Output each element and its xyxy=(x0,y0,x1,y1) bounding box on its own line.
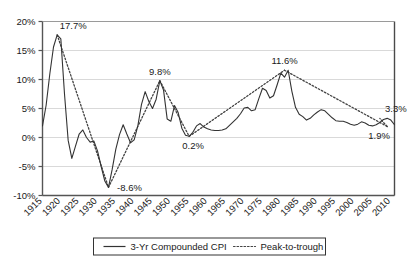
x-axis-tick-label: 1935 xyxy=(95,195,118,218)
cpi-line xyxy=(43,35,395,188)
peak-to-trough-segment xyxy=(109,81,160,188)
y-axis-tick-label: 20% xyxy=(16,16,36,27)
data-label: 9.8% xyxy=(149,66,171,77)
data-label: -8.6% xyxy=(117,182,142,193)
data-label: 17.7% xyxy=(60,20,87,31)
peak-to-trough-segment xyxy=(285,70,388,126)
legend-label-cpi: 3-Yr Compounded CPI xyxy=(131,241,227,252)
x-axis-tick-label: 1930 xyxy=(76,195,99,218)
x-axis-tick-label: 1985 xyxy=(278,195,301,218)
y-axis-tick-label: 5% xyxy=(22,103,36,114)
peak-to-trough-series xyxy=(57,35,387,188)
cpi-series xyxy=(43,35,395,188)
y-axis-labels: 20%15%10%5%0%-5%-10% xyxy=(13,16,36,201)
x-axis-tick-label: 1955 xyxy=(168,195,191,218)
x-axis-tick-label: 1970 xyxy=(223,195,246,218)
cpi-chart: 20%15%10%5%0%-5%-10% 1915192019251930193… xyxy=(0,0,415,264)
x-axis-tick-label: 1945 xyxy=(131,195,154,218)
x-axis-tick-label: 1980 xyxy=(260,195,283,218)
x-axis-tick-label: 1940 xyxy=(113,195,136,218)
y-axis-tick-label: 0% xyxy=(22,132,36,143)
legend: 3-Yr Compounded CPIPeak-to-trough xyxy=(94,238,326,255)
y-axis-tick-label: 10% xyxy=(16,74,36,85)
data-label: 3.3% xyxy=(385,103,407,114)
x-axis-tick-label: 2000 xyxy=(333,195,356,218)
gridlines xyxy=(43,22,395,196)
x-axis-tick-label: 1920 xyxy=(40,195,63,218)
legend-label-peak-to-trough: Peak-to-trough xyxy=(261,241,324,252)
x-axis-tick-label: 1990 xyxy=(296,195,319,218)
x-axis-tick-label: 1965 xyxy=(205,195,228,218)
data-label: 0.2% xyxy=(182,140,204,151)
chart-canvas: 20%15%10%5%0%-5%-10% 1915192019251930193… xyxy=(0,0,415,264)
data-label: 1.9% xyxy=(368,130,390,141)
x-axis-tick-label: 1950 xyxy=(150,195,173,218)
data-label: 11.6% xyxy=(271,55,298,66)
data-annotations: 17.7%-8.6%9.8%0.2%11.6%3.3%1.9% xyxy=(60,20,408,194)
x-axis-tick-label: 2005 xyxy=(351,195,374,218)
y-axis-tick-label: -5% xyxy=(19,161,36,172)
x-axis-tick-label: 1960 xyxy=(186,195,209,218)
x-axis-tick-label: 1995 xyxy=(315,195,338,218)
x-axis-labels: 1915192019251930193519401945195019551960… xyxy=(21,195,392,218)
x-axis-tick-label: 2010 xyxy=(370,195,393,218)
x-axis-tick-label: 1925 xyxy=(58,195,81,218)
x-axis-tick-label: 1975 xyxy=(241,195,264,218)
y-axis-tick-label: 15% xyxy=(16,45,36,56)
